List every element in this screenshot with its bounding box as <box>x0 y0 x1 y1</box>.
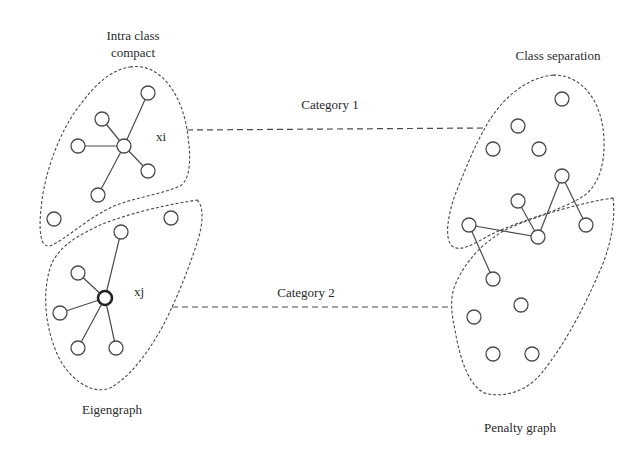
diagram-canvas: Intra class compact Class separation Cat… <box>0 0 644 451</box>
node-xj <box>98 291 112 305</box>
xi-label: xi <box>156 128 166 145</box>
intra-class-label: Intra class compact <box>106 27 159 61</box>
eigengraph-label: Eigengraph <box>82 401 142 418</box>
category-2-label: Category 2 <box>277 284 334 301</box>
node-xi <box>117 139 131 153</box>
xj-label: xj <box>134 283 144 300</box>
penalty-edges <box>469 176 586 279</box>
penalty-graph-label: Penalty graph <box>484 419 556 436</box>
xj-star-edges <box>60 232 121 348</box>
penalty-nodes <box>462 92 593 361</box>
category-1-label: Category 1 <box>301 96 358 113</box>
class-separation-label: Class separation <box>516 47 601 64</box>
category-1-eigengraph-nodes <box>47 86 155 226</box>
diagram-graphics <box>0 0 644 451</box>
category-1-link <box>187 128 485 130</box>
xi-star-edges <box>78 93 148 195</box>
